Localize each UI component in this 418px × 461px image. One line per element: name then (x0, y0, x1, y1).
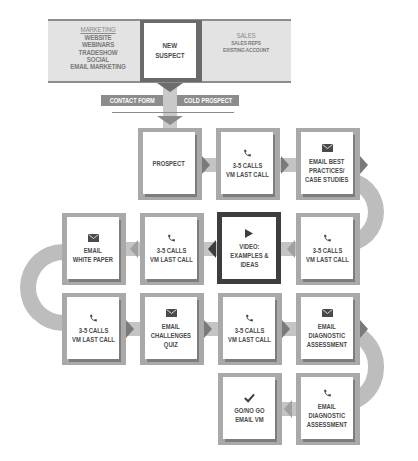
step-label: VM LAST CALL (228, 335, 271, 344)
step-label: IDEAS (230, 260, 268, 269)
step-calls: 3-5 CALLS VM LAST CALL (140, 213, 204, 285)
phone-icon (245, 312, 254, 323)
new-suspect-line: SUSPECT (155, 51, 184, 61)
envelope-icon (322, 308, 333, 319)
arrow-left-icon (284, 400, 292, 418)
contact-form-tag: CONTACT FORM (101, 95, 163, 106)
step-label: WHITE PAPER (73, 255, 113, 264)
arrow-down-icon (157, 83, 183, 92)
phone-icon (243, 147, 252, 158)
arrow-left-icon (130, 240, 138, 258)
arrow-right-icon (126, 320, 134, 338)
step-label: EXAMPLES & (230, 251, 268, 260)
step-label: VM LAST CALL (150, 255, 193, 264)
arrow-right-icon (281, 156, 289, 174)
marketing-block: MARKETING WEBSITE WEBINARS TRADESHOW SOC… (56, 25, 140, 70)
arrow-left-icon (287, 240, 295, 258)
step-label: 3-5 CALLS (72, 326, 115, 335)
step-email-diagnostic-final: EMAIL DIAGNOSTIC ASSESSMENT (296, 373, 360, 445)
arrow-down-icon (157, 116, 183, 125)
step-email-challenges-quiz: EMAIL CHALLENGES QUIZ (140, 293, 204, 365)
arrow-right-icon (202, 156, 210, 174)
step-label: QUIZ (151, 340, 191, 349)
step-label: EMAIL VM (234, 415, 264, 424)
checkmark-icon (244, 392, 255, 403)
new-suspect-box: NEW SUSPECT (140, 20, 202, 82)
step-label: CASE STUDIES (305, 175, 348, 184)
step-label: VM LAST CALL (72, 335, 115, 344)
step-label: VIDEO: (230, 242, 268, 251)
step-label: ASSESSMENT (307, 340, 347, 349)
phone-icon (323, 388, 332, 399)
step-calls: 3-5 CALLS VM LAST CALL (296, 213, 360, 285)
step-label: EMAIL (307, 402, 347, 411)
sales-item: EXISTING ACCOUNT (213, 47, 279, 54)
sales-title: SALES (213, 31, 279, 40)
step-label: EMAIL (307, 322, 347, 331)
step-email-diagnostic: EMAIL DIAGNOSTIC ASSESSMENT (296, 293, 360, 365)
arrow-right-icon (360, 320, 368, 338)
step-label: EMAIL (151, 322, 191, 331)
step-label: PRACTICES/ (305, 166, 348, 175)
envelope-icon (88, 232, 99, 243)
envelope-icon (166, 308, 177, 319)
phone-icon (167, 232, 176, 243)
step-label: CHALLENGES (151, 331, 191, 340)
sales-item: SALES REPS (213, 40, 279, 47)
step-go-no-go: GO/NO GO EMAIL VM (218, 373, 282, 445)
step-label: 3-5 CALLS (228, 326, 271, 335)
step-label: DIAGNOSTIC (307, 331, 347, 340)
step-label: VM LAST CALL (306, 255, 349, 264)
step-label: 3-5 CALLS (306, 246, 349, 255)
step-label: DIAGNOSTIC (307, 411, 347, 420)
step-label: 3-5 CALLS (150, 246, 193, 255)
marketing-item: EMAIL MARKETING (64, 63, 133, 70)
step-label: GO/NO GO (234, 406, 264, 415)
play-icon (245, 228, 253, 239)
step-email-best-practices: EMAIL BEST PRACTICES/ CASE STUDIES (296, 128, 360, 200)
step-label: VM LAST CALL (226, 170, 269, 179)
envelope-icon (322, 143, 333, 154)
step-label: ASSESSMENT (307, 420, 347, 429)
arrow-left-icon (208, 240, 216, 258)
step-calls: 3-5 CALLS VM LAST CALL (218, 293, 282, 365)
step-prospect: PROSPECT (138, 128, 202, 200)
step-email-white-paper: EMAIL WHITE PAPER (62, 213, 126, 285)
step-calls: 3-5 CALLS VM LAST CALL (62, 293, 126, 365)
step-label: EMAIL BEST (305, 157, 348, 166)
step-calls: 3-5 CALLS VM LAST CALL (216, 128, 280, 200)
divider-line (112, 112, 234, 113)
phone-icon (89, 312, 98, 323)
arrow-right-icon (360, 156, 368, 174)
arrow-right-icon (282, 320, 290, 338)
cold-prospect-tag: COLD PROSPECT (177, 95, 239, 106)
sales-block: SALES SALES REPS EXISTING ACCOUNT (206, 31, 286, 55)
step-video-highlight: VIDEO: EXAMPLES & IDEAS (217, 212, 281, 284)
new-suspect-line: NEW (155, 41, 184, 51)
arrow-right-icon (204, 320, 212, 338)
step-label: PROSPECT (153, 159, 185, 168)
phone-icon (323, 232, 332, 243)
step-label: 3-5 CALLS (226, 161, 269, 170)
step-label: EMAIL (73, 246, 113, 255)
